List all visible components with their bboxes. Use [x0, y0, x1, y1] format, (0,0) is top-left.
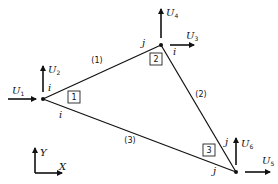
element-3-label: (3) — [124, 136, 135, 145]
node-1-number: 1 — [71, 93, 76, 102]
node2-end-i: i — [173, 46, 176, 57]
node2-end-j: j — [140, 37, 145, 48]
node-1-dot — [41, 97, 45, 101]
element-1-bar — [43, 45, 161, 99]
u6-label: U6 — [241, 138, 253, 150]
element-1-label: (1) — [91, 56, 102, 65]
node-2-number: 2 — [153, 55, 158, 64]
node3-end-j-upper: j — [223, 136, 228, 147]
u4-label: U4 — [166, 7, 178, 19]
u5-label: U5 — [262, 155, 274, 167]
node3-end-j-lower: j — [211, 165, 216, 176]
element-3-bar — [43, 99, 236, 172]
u1-label: U1 — [12, 85, 24, 97]
u2-label: U2 — [48, 64, 60, 76]
element-2-bar — [161, 45, 236, 172]
node1-end-i-upper: i — [48, 82, 51, 93]
element-2-label: (2) — [195, 90, 206, 99]
node1-end-i-lower: i — [59, 109, 62, 120]
u3-label: U3 — [186, 30, 198, 42]
y-axis-label: Y — [40, 147, 48, 158]
node-3-dot — [234, 170, 238, 174]
node-3-number: 3 — [206, 146, 211, 155]
node-2-dot — [159, 43, 163, 47]
truss-diagram: U1 U2 U3 U4 U5 U6 i i j i j j 1 2 3 (1) … — [0, 0, 278, 184]
x-axis-label: X — [58, 161, 67, 172]
